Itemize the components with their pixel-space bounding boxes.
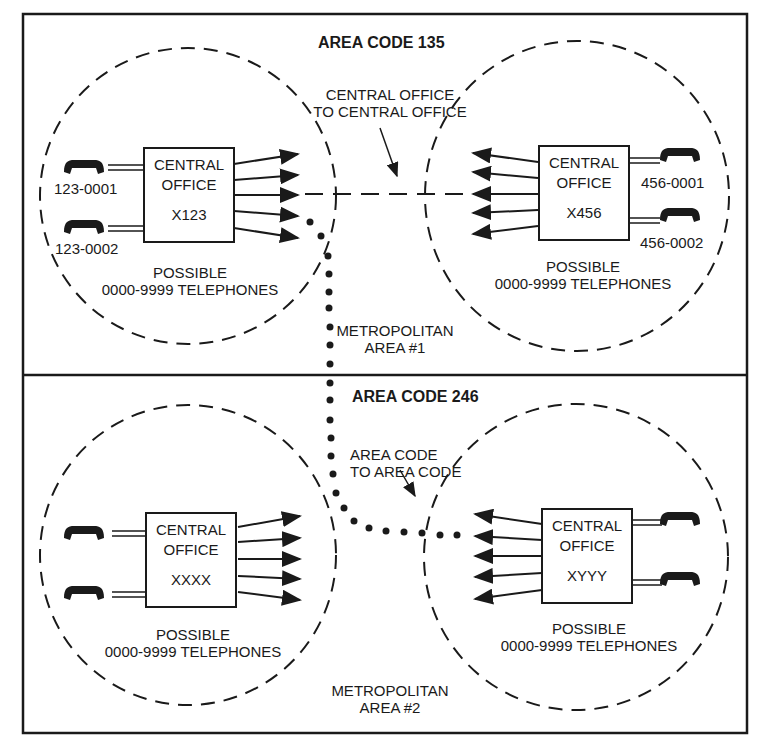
metro-area-2-label: METROPOLITAN AREA #2 — [325, 682, 455, 716]
area-code-trunk-dots — [307, 219, 461, 539]
phone-number: 123-0002 — [55, 240, 118, 257]
co-to-co-label: CENTRAL OFFICE TO CENTRAL OFFICE — [300, 86, 480, 120]
phone-number: 456-0002 — [640, 234, 703, 251]
area-code-135-title: AREA CODE 135 — [318, 34, 445, 51]
telephone-icon — [64, 586, 104, 600]
telephone-icon — [64, 160, 104, 174]
telephone-icon — [64, 220, 104, 234]
phone-number: 123-0001 — [54, 180, 117, 197]
phone-number: 456-0001 — [641, 174, 704, 191]
possible-telephones-label: POSSIBLE 0000-9999 TELEPHONES — [85, 264, 295, 298]
ac-to-ac-label: AREA CODE TO AREA CODE — [350, 446, 480, 480]
central-office-x123: CENTRAL OFFICE X123 — [143, 147, 235, 243]
possible-telephones-label: POSSIBLE 0000-9999 TELEPHONES — [484, 620, 694, 654]
central-office-xyyy: CENTRAL OFFICE XYYY — [541, 508, 633, 604]
central-office-x456: CENTRAL OFFICE X456 — [538, 145, 630, 241]
telephone-icon — [64, 526, 104, 540]
possible-telephones-label: POSSIBLE 0000-9999 TELEPHONES — [478, 258, 688, 292]
metro-area-1-label: METROPOLITAN AREA #1 — [330, 322, 460, 356]
telephone-icon — [660, 208, 700, 222]
telephone-icon — [660, 512, 700, 526]
telephone-icon — [660, 572, 700, 586]
telephone-icon — [660, 148, 700, 162]
area-code-246-title: AREA CODE 246 — [352, 388, 479, 405]
possible-telephones-label: POSSIBLE 0000-9999 TELEPHONES — [88, 626, 298, 660]
central-office-xxxx: CENTRAL OFFICE XXXX — [145, 512, 237, 608]
